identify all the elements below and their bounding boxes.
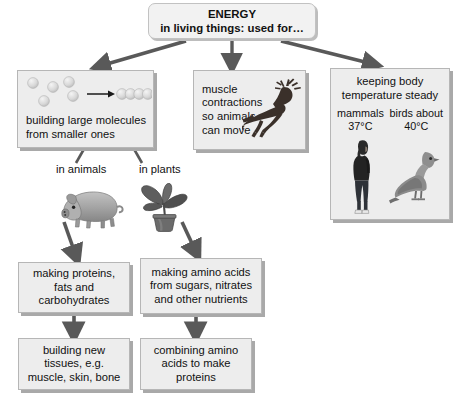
title-box: ENERGY in living things: used for… bbox=[148, 3, 316, 39]
pigeon-icon bbox=[389, 147, 445, 217]
temp-labels-row: mammals 37°C birds about 40°C bbox=[331, 107, 449, 133]
title-line-1: ENERGY bbox=[208, 7, 256, 22]
title-line-2: in living things: used for… bbox=[160, 21, 304, 36]
birds-label: birds about bbox=[390, 107, 443, 120]
branch-label-in-plants: in plants bbox=[139, 163, 181, 175]
human-figure-icon bbox=[343, 137, 383, 219]
box-body-temperature: keeping body temperature steady mammals … bbox=[330, 68, 450, 220]
box-proteins-label: making proteins, fats and carbohydrates bbox=[33, 267, 115, 308]
box-making-amino-acids: making amino acids from sugars, nitrates… bbox=[140, 258, 262, 314]
birds-value: 40°C bbox=[404, 120, 428, 133]
branch-stub-plants bbox=[134, 149, 142, 163]
box-muscle-contractions: muscle contractions so animals can move bbox=[193, 70, 306, 150]
box-making-proteins: making proteins, fats and carbohydrates bbox=[18, 262, 130, 313]
arrow-title-to-molecules bbox=[100, 41, 186, 66]
temperature-figures bbox=[331, 133, 449, 219]
birds-column: birds about 40°C bbox=[390, 107, 443, 133]
potted-plant-icon bbox=[136, 183, 192, 233]
branch-label-in-animals: in animals bbox=[56, 163, 106, 175]
mammals-column: mammals 37°C bbox=[337, 107, 384, 133]
pig-icon bbox=[56, 183, 124, 229]
mammals-label: mammals bbox=[337, 107, 384, 120]
box-molecules-label: building large molecules from smaller on… bbox=[18, 114, 146, 141]
mammals-value: 37°C bbox=[348, 120, 372, 133]
molecule-chain-icon bbox=[22, 74, 152, 110]
box-amino-label: making amino acids from sugars, nitrates… bbox=[150, 266, 252, 307]
box-combining-label: combining amino acids to make proteins bbox=[154, 344, 239, 385]
box-building-tissues: building new tissues, e.g. muscle, skin,… bbox=[18, 338, 130, 390]
branch-stub-animals bbox=[76, 149, 84, 163]
box-combining-amino-acids: combining amino acids to make proteins bbox=[140, 338, 252, 390]
box-tissues-label: building new tissues, e.g. muscle, skin,… bbox=[28, 344, 121, 385]
box-building-molecules: building large molecules from smaller on… bbox=[17, 70, 154, 148]
arrow-title-to-temperature bbox=[281, 41, 373, 64]
leaping-deer-icon bbox=[242, 77, 308, 149]
box-temp-heading: keeping body temperature steady bbox=[342, 75, 438, 102]
energy-flow-diagram: ENERGY in living things: used for… bbox=[0, 0, 461, 406]
